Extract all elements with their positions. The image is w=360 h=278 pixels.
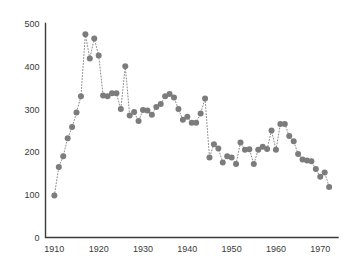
y-tick-label: 400: [24, 62, 39, 72]
x-tick-label: 1970: [310, 244, 330, 254]
y-axis-tick-labels: 0100200300400500: [24, 19, 39, 243]
data-point: [82, 31, 88, 37]
data-point: [113, 90, 119, 96]
x-tick-label: 1960: [266, 244, 286, 254]
data-point: [202, 95, 208, 101]
scatter-chart: 0100200300400500 19101920193019401950196…: [0, 0, 360, 278]
data-point: [65, 135, 71, 141]
data-point: [220, 160, 226, 166]
data-point: [184, 114, 190, 120]
series-connector-line: [54, 34, 329, 195]
data-point: [286, 133, 292, 139]
data-point: [313, 166, 319, 172]
data-point: [69, 124, 75, 130]
data-point: [118, 106, 124, 112]
data-point: [291, 138, 297, 144]
data-point: [295, 151, 301, 157]
data-point: [193, 120, 199, 126]
data-point: [74, 110, 80, 116]
data-point: [206, 154, 212, 160]
data-point: [78, 93, 84, 99]
data-point: [273, 147, 279, 153]
x-tick-label: 1950: [222, 244, 242, 254]
data-point: [233, 161, 239, 167]
data-point: [198, 110, 204, 116]
data-point: [322, 169, 328, 175]
data-point: [308, 158, 314, 164]
data-point: [282, 121, 288, 127]
data-point: [264, 146, 270, 152]
data-point: [87, 56, 93, 62]
data-point: [211, 141, 217, 147]
data-point: [60, 153, 66, 159]
data-point: [122, 63, 128, 69]
data-point: [51, 193, 57, 199]
data-point: [251, 161, 257, 167]
series-data-points: [51, 31, 332, 198]
data-point: [229, 154, 235, 160]
y-tick-label: 300: [24, 105, 39, 115]
data-point: [96, 53, 102, 59]
x-tick-label: 1920: [89, 244, 109, 254]
data-point: [158, 101, 164, 107]
data-point: [238, 139, 244, 145]
data-point: [326, 184, 332, 190]
data-point: [91, 35, 97, 41]
data-point: [144, 107, 150, 113]
data-point: [171, 95, 177, 101]
data-point: [56, 164, 62, 170]
data-point: [317, 174, 323, 180]
y-tick-label: 100: [24, 190, 39, 200]
data-point: [246, 146, 252, 152]
data-point: [136, 118, 142, 124]
data-point: [175, 106, 181, 112]
chart-container: 0100200300400500 19101920193019401950196…: [0, 0, 360, 278]
x-tick-label: 1910: [44, 244, 64, 254]
x-tick-label: 1940: [177, 244, 197, 254]
data-point: [269, 128, 275, 134]
x-axis-tick-labels: 1910192019301940195019601970: [44, 244, 330, 254]
y-tick-label: 500: [24, 19, 39, 29]
y-tick-label: 0: [34, 233, 39, 243]
data-point: [131, 109, 137, 115]
x-tick-label: 1930: [133, 244, 153, 254]
y-tick-label: 200: [24, 147, 39, 157]
data-point: [215, 145, 221, 151]
data-point: [149, 112, 155, 118]
